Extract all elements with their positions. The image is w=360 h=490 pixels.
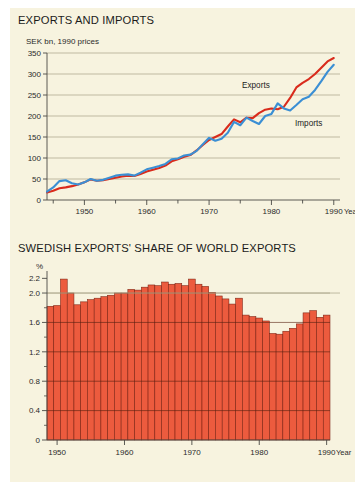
- y-tick-label: 0: [37, 196, 42, 205]
- x-axis-ticks-group: 19501960197019801990: [53, 200, 343, 216]
- x-axis-title-bottom: Year: [336, 448, 352, 457]
- bar: [87, 300, 94, 440]
- exports-imports-chart: 050100150200250300350 195019601970198019…: [10, 8, 355, 236]
- bar: [317, 317, 324, 440]
- bar: [209, 292, 216, 440]
- x-axis-title-top: Year: [344, 207, 355, 216]
- y-tick-label: 0: [36, 436, 41, 445]
- y-tick-label: 2.2: [29, 274, 41, 283]
- bar: [269, 333, 276, 440]
- bar: [310, 311, 317, 440]
- x-tick-label: 1970: [200, 207, 218, 216]
- x-tick-label: 1990: [318, 448, 336, 457]
- bar: [215, 296, 222, 440]
- bar: [162, 282, 169, 440]
- y-tick-label: 250: [28, 91, 42, 100]
- x-tick-label: 1960: [138, 207, 156, 216]
- bar: [60, 279, 67, 440]
- bar: [296, 324, 303, 440]
- bar: [114, 293, 121, 440]
- bar: [263, 321, 270, 440]
- x-tick-label: 1960: [116, 448, 134, 457]
- bar: [323, 315, 330, 440]
- y-tick-label: 1.2: [29, 348, 41, 357]
- bar: [121, 293, 128, 440]
- series-label-exports: Exports: [242, 81, 270, 90]
- bar: [290, 328, 297, 440]
- bar: [283, 331, 290, 440]
- bar: [249, 317, 256, 440]
- bar: [175, 283, 182, 440]
- bar: [229, 304, 236, 440]
- figure-page: EXPORTS AND IMPORTS SEK bn, 1990 prices …: [0, 0, 360, 490]
- bar: [256, 318, 263, 440]
- x-tick-label: 1950: [48, 448, 66, 457]
- bar: [67, 293, 74, 440]
- series-label-imports: Imports: [295, 119, 322, 128]
- y-tick-label: 0.4: [29, 406, 41, 415]
- bar: [168, 284, 175, 440]
- bars-group: [47, 279, 330, 440]
- y-tick-label: 1.6: [29, 318, 41, 327]
- bar: [303, 313, 310, 440]
- bar: [74, 305, 81, 440]
- y-tick-label: 150: [28, 133, 42, 142]
- y-tick-label: 2.0: [29, 289, 41, 298]
- bar: [54, 306, 61, 440]
- bar: [155, 286, 162, 440]
- y-tick-label: 300: [28, 70, 42, 79]
- bar: [242, 315, 249, 440]
- series-line-imports: [47, 65, 334, 192]
- bar: [128, 289, 135, 440]
- x-tick-label: 1980: [263, 207, 281, 216]
- bar: [141, 287, 148, 440]
- y-axis-ticks-group: 00.40.81.21.62.02.2: [29, 271, 47, 445]
- y-tick-label: 200: [28, 112, 42, 121]
- bar: [148, 285, 155, 440]
- bar: [189, 279, 196, 440]
- x-tick-label: 1980: [250, 448, 268, 457]
- y-axis-ticks-group: 050100150200250300350: [28, 49, 47, 205]
- bar: [182, 286, 189, 440]
- series-line-exports: [47, 58, 334, 192]
- x-tick-label: 1970: [183, 448, 201, 457]
- x-tick-label: 1990: [325, 207, 343, 216]
- bar: [276, 334, 283, 440]
- bar: [236, 298, 243, 440]
- bar: [222, 299, 229, 440]
- world-share-chart: 00.40.81.21.62.02.2 19501960197019801990…: [10, 236, 355, 482]
- bar: [108, 295, 115, 440]
- y-tick-label: 0.8: [29, 377, 41, 386]
- bar: [202, 286, 209, 440]
- bar: [135, 290, 142, 440]
- y-tick-label: 50: [32, 175, 41, 184]
- series-lines-group: [47, 58, 334, 192]
- y-tick-label: 350: [28, 49, 42, 58]
- bar: [47, 306, 54, 440]
- x-axis-ticks-group: 19501960197019801990: [48, 440, 336, 457]
- x-tick-label: 1950: [76, 207, 94, 216]
- bar: [101, 297, 108, 440]
- bar: [195, 284, 202, 440]
- bar: [94, 298, 101, 440]
- y-tick-label: 100: [28, 154, 42, 163]
